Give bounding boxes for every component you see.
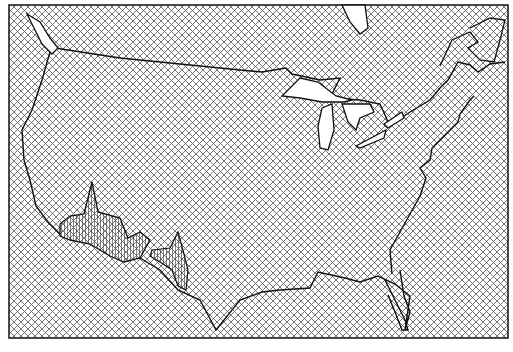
us-crosshatch-map: [0, 0, 513, 352]
map-frame: [9, 5, 508, 338]
